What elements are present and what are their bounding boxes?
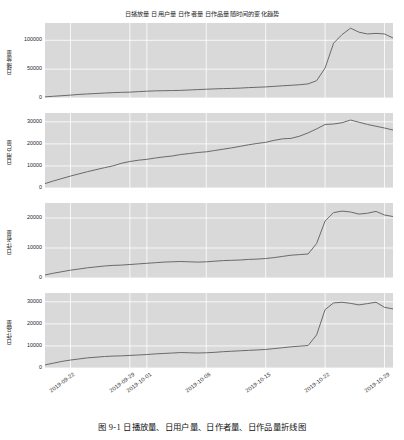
plot-area bbox=[45, 293, 393, 368]
chart-panel-authorcount: 01000020000日作者量 bbox=[0, 203, 404, 278]
y-axis-tick-label: 10000 bbox=[9, 245, 42, 250]
y-axis-tick-label: 0 bbox=[9, 275, 42, 280]
y-axis-tick-label: 20000 bbox=[9, 141, 42, 146]
chart-panel-workcount: 0100002000030000日作品量 bbox=[0, 293, 404, 368]
y-axis-tick-label: 0 bbox=[9, 185, 42, 190]
plot-area bbox=[45, 203, 393, 278]
x-axis-tick-label: 2019-09-22 bbox=[39, 371, 76, 401]
chart-panel-usercount: 0100002000030000日用户量 bbox=[0, 113, 404, 188]
x-axis-tick-label: 2019-10-08 bbox=[175, 371, 212, 401]
y-axis-tick-label: 30000 bbox=[9, 299, 42, 304]
plot-area bbox=[45, 23, 393, 98]
y-axis-title: 日作品量 bbox=[5, 318, 13, 346]
y-axis-tick-label: 10000 bbox=[9, 343, 42, 348]
y-axis-title: 日播放量 bbox=[5, 48, 13, 76]
figure-container: 日播放量 日用户量 日作者量 日作品量随时间的变化趋势 050000100000… bbox=[0, 0, 404, 440]
figure-title: 日播放量 日用户量 日作者量 日作品量随时间的变化趋势 bbox=[0, 9, 404, 18]
x-axis-tick-label: 2019-10-22 bbox=[294, 371, 331, 401]
y-axis-tick-label: 20000 bbox=[9, 215, 42, 220]
plot-background bbox=[45, 113, 393, 188]
y-axis-title: 日作者量 bbox=[5, 228, 13, 256]
y-axis-tick-label: 50000 bbox=[9, 66, 42, 71]
plot-area bbox=[45, 113, 393, 188]
x-axis-tick-label: 2019-10-15 bbox=[234, 371, 271, 401]
y-axis-tick-label: 10000 bbox=[9, 163, 42, 168]
chart-panel-playcount: 050000100000日播放量 bbox=[0, 23, 404, 98]
y-axis-tick-label: 0 bbox=[9, 95, 42, 100]
y-axis-tick-label: 100000 bbox=[9, 37, 42, 42]
y-axis-tick-label: 0 bbox=[9, 365, 42, 370]
y-axis-tick-label: 30000 bbox=[9, 119, 42, 124]
y-axis-title: 日用户量 bbox=[5, 138, 13, 166]
plot-background bbox=[45, 23, 393, 98]
y-axis-tick-label: 20000 bbox=[9, 321, 42, 326]
figure-caption: 图 9-1 日播放量、日用户量、日作者量、日作品量折线图 bbox=[0, 420, 404, 432]
x-axis-tick-label: 2019-10-29 bbox=[353, 371, 390, 401]
